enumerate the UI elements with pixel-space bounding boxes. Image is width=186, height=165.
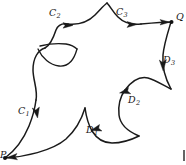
arc-label-d2-sub: 2	[136, 99, 140, 107]
arc-label-c1-base: C	[18, 105, 25, 116]
arc-label-c1-sub: 1	[26, 110, 30, 118]
arc-label-c2-base: C	[49, 7, 56, 18]
arc-label-d2: D2	[128, 95, 140, 105]
arc-label-c1: C1	[18, 106, 30, 116]
arc-label-d2-base: D	[128, 94, 136, 105]
arc-label-c2: C2	[49, 8, 61, 18]
arc-label-d1: D1	[86, 125, 98, 135]
page-edge-mark	[183, 150, 185, 161]
main-curve-d1-to-p	[5, 108, 85, 158]
node-label-p: P	[0, 150, 7, 160]
arc-label-d3-base: D	[163, 54, 171, 65]
arrow-c3-icon	[127, 22, 137, 28]
arc-label-c3-sub: 3	[124, 11, 128, 19]
main-curve-d3-cusp-to-d2	[125, 78, 171, 90]
arc-label-d1-sub: 1	[94, 129, 98, 137]
arc-label-c3-base: C	[116, 6, 123, 17]
arrow-d2-icon	[120, 88, 131, 94]
node-label-q: Q	[176, 12, 184, 22]
arc-label-d3: D3	[163, 55, 175, 65]
arc-label-d3-sub: 3	[171, 59, 175, 67]
arc-label-c3: C3	[116, 7, 128, 17]
main-curve-c2-arc	[68, 3, 107, 24]
curve-diagram-svg	[0, 0, 186, 165]
main-curve-left-upper	[33, 48, 45, 100]
figure-container: P Q C1 C2 C3 D1 D2 D3	[0, 0, 186, 165]
inner-loop-lower	[38, 49, 77, 66]
arc-label-d1-base: D	[86, 124, 94, 135]
node-dot-q	[170, 20, 174, 24]
arc-label-c2-sub: 2	[57, 12, 61, 20]
